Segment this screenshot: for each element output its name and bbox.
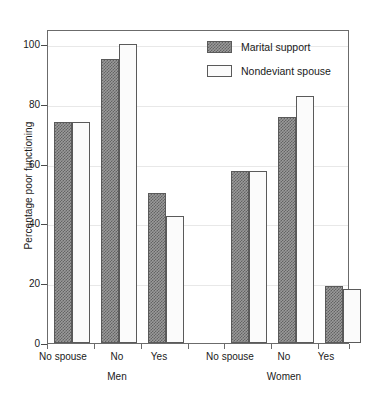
group-label-men: Men	[92, 371, 142, 383]
x-label-women-yes: Yes	[301, 351, 351, 363]
y-axis-tick-label: 80	[0, 100, 40, 110]
legend-swatch-open-icon	[207, 65, 232, 77]
legend-label-marital-support: Marital support	[241, 41, 310, 53]
bar	[72, 122, 90, 343]
group-label-women: Women	[257, 371, 311, 383]
bar	[249, 171, 267, 343]
bar	[54, 122, 72, 343]
bar	[231, 171, 249, 343]
y-axis-tick-label: 40	[0, 219, 40, 229]
x-label-men-no-spouse: No spouse	[23, 351, 103, 363]
legend-label-nondeviant-spouse: Nondeviant spouse	[241, 65, 331, 77]
bar-chart-figure: Percentage poor functioning 020406080100…	[0, 0, 367, 393]
y-axis-tick-label: 100	[0, 40, 40, 50]
legend-entry-nondeviant-spouse: Nondeviant spouse	[207, 62, 342, 80]
x-axis-tick	[47, 344, 48, 349]
bar	[119, 44, 137, 343]
x-axis-tick	[94, 344, 95, 349]
x-axis-tick	[349, 344, 350, 349]
x-axis-tick	[271, 344, 272, 349]
bar	[101, 59, 119, 343]
x-axis-tick	[224, 344, 225, 349]
y-axis-tick-label: 60	[0, 160, 40, 170]
x-label-women-no-spouse: No spouse	[190, 351, 270, 363]
bar	[296, 96, 314, 343]
x-axis-tick	[188, 344, 189, 349]
chart-legend: Marital support Nondeviant spouse	[207, 38, 342, 86]
legend-entry-marital-support: Marital support	[207, 38, 342, 56]
bar	[325, 286, 343, 343]
bar	[278, 117, 296, 343]
x-axis-tick	[318, 344, 319, 349]
y-axis-tick-label: 0	[0, 339, 40, 349]
y-axis-tick-label: 20	[0, 279, 40, 289]
bar	[148, 193, 166, 343]
x-label-men-yes: Yes	[134, 351, 184, 363]
x-axis-tick	[141, 344, 142, 349]
bar	[343, 289, 361, 343]
bar	[166, 216, 184, 343]
legend-swatch-hatched-icon	[207, 41, 232, 53]
